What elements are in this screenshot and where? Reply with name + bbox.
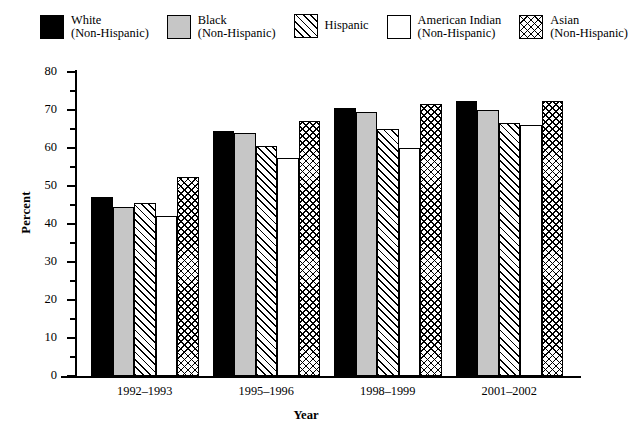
y-tick-label: 0 (51, 368, 57, 383)
bar (356, 112, 378, 376)
bar (177, 177, 199, 377)
bar (477, 110, 499, 376)
bar (113, 207, 135, 376)
y-tick-label: 50 (45, 178, 58, 193)
bar (399, 148, 421, 376)
y-tick-label: 70 (45, 102, 58, 117)
x-axis-line (61, 376, 581, 378)
bar (299, 121, 321, 376)
bar (420, 104, 442, 376)
x-group-label: 1992–1993 (85, 384, 205, 399)
plot-area (77, 72, 577, 376)
bar (520, 125, 542, 376)
bar (499, 123, 521, 376)
x-group-label: 1995–1996 (206, 384, 326, 399)
bar (377, 129, 399, 376)
bar (156, 216, 178, 376)
bar (256, 146, 278, 376)
bar (134, 203, 156, 376)
bar (91, 197, 113, 376)
x-group-label: 1998–1999 (328, 384, 448, 399)
bar (334, 108, 356, 376)
bar (234, 133, 256, 376)
x-axis-title: Year (0, 408, 612, 423)
y-tick-label: 30 (45, 254, 58, 269)
bar (213, 131, 235, 376)
y-tick-label: 80 (45, 64, 58, 79)
y-tick-label: 60 (45, 140, 58, 155)
bar (542, 101, 564, 377)
y-axis-title: Percent (19, 173, 34, 253)
y-axis-tick-labels: 01020304050607080 (0, 0, 75, 441)
y-tick-label: 40 (45, 216, 58, 231)
y-tick-label: 10 (45, 330, 58, 345)
x-group-label: 2001–2002 (449, 384, 569, 399)
bar (456, 101, 478, 377)
bar (277, 158, 299, 377)
y-tick-label: 20 (45, 292, 58, 307)
